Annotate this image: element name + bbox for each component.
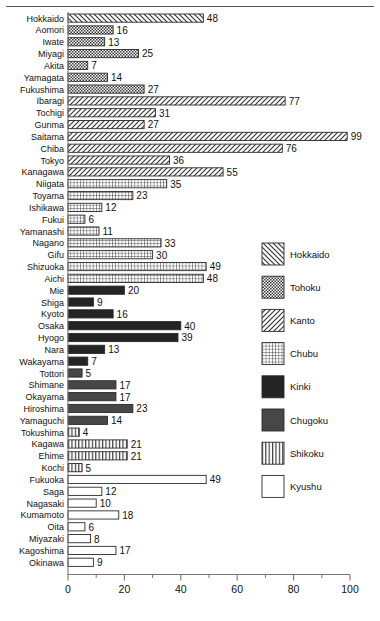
bar-shiga [68,298,93,306]
bar-wakayama [68,357,88,365]
chart-canvas: HokkaidoAomoriIwateMiyagiAkitaYamagataFu… [0,0,380,621]
value-label-oita: 6 [88,522,94,533]
legend-item-chugoku[interactable]: Chugoku [262,409,328,431]
value-label-shiga: 9 [97,297,103,308]
legend-label-hokkaido: Hokkaido [290,249,330,260]
category-label-ibaragi: Ibaragi [36,96,64,106]
value-label-mie: 20 [128,285,140,296]
category-label-ishikawa: Ishikawa [29,203,64,213]
x-tick-label-0: 0 [65,583,71,595]
category-label-fukuoka: Fukuoka [29,475,64,485]
legend-item-tohoku[interactable]: Tohoku [262,276,321,298]
bar-tottori [68,369,82,377]
bar-kanagawa [68,168,223,176]
bar-toyama [68,191,133,199]
bar-okayama [68,393,116,401]
category-label-aichi: Aichi [44,274,64,284]
x-tick-label-60: 60 [231,583,243,595]
category-label-shiga: Shiga [41,298,64,308]
category-label-chiba: Chiba [40,144,64,154]
value-label-fukui: 6 [88,214,94,225]
category-label-saga: Saga [43,487,64,497]
x-tick-label-40: 40 [175,583,187,595]
legend-label-tohoku: Tohoku [290,282,321,293]
value-label-akita: 7 [91,60,97,71]
bar-shizuoka [68,262,206,270]
category-label-oita: Oita [47,522,64,532]
bar-hokkaido [68,14,203,22]
value-label-miyagi: 25 [142,48,154,59]
bar-osaka [68,322,181,330]
category-label-nagano: Nagano [32,238,64,248]
legend-item-chubu[interactable]: Chubu [262,343,318,365]
bar-shimane [68,381,116,389]
bar-tokushima [68,428,79,436]
legend-item-shikoku[interactable]: Shikoku [262,442,324,464]
bar-akita [68,61,88,69]
bar-yamanashi [68,227,99,235]
value-label-shimane: 17 [119,380,131,391]
bar-nagano [68,239,161,247]
value-label-fukuoka: 49 [210,474,222,485]
legend-swatch-grid [262,343,284,365]
value-label-tokyo: 36 [173,155,185,166]
x-tick-label-80: 80 [288,583,300,595]
category-label-iwate: Iwate [42,37,64,47]
category-label-aomori: Aomori [35,25,64,35]
value-label-chiba: 76 [286,143,298,154]
category-label-tochigi: Tochigi [36,108,64,118]
legend-item-kyushu[interactable]: Kyushu [262,475,322,497]
category-label-yamagata: Yamagata [24,73,64,83]
bar-saga [68,487,102,495]
legend-swatch-diagonal-backslash [262,243,284,265]
value-label-yamaguchi: 14 [111,415,123,426]
category-label-hokkaido: Hokkaido [26,14,64,24]
category-label-kochi: Kochi [41,463,64,473]
category-label-okayama: Okayama [25,392,64,402]
value-label-ehime: 21 [131,451,143,462]
value-label-nara: 13 [108,344,120,355]
category-label-nagasaki: Nagasaki [26,499,64,509]
value-label-gifu: 30 [156,250,168,261]
bar-chiba [68,144,282,152]
category-label-kumamoto: Kumamoto [20,510,64,520]
category-label-mie: Mie [49,286,64,296]
value-label-tokushima: 4 [83,427,89,438]
bar-aichi [68,274,203,282]
value-label-kanagawa: 55 [227,167,239,178]
legend-label-shikoku: Shikoku [290,448,324,459]
category-label-nara: Nara [44,345,64,355]
value-label-kyoto: 16 [117,309,129,320]
value-label-miyazaki: 8 [94,534,100,545]
category-label-miyagi: Miyagi [38,49,64,59]
bar-ehime [68,452,127,460]
bar-fukushima [68,85,144,93]
value-label-ishikawa: 12 [105,202,117,213]
category-label-fukui: Fukui [42,215,64,225]
bar-nagasaki [68,499,96,507]
legend-item-kanto[interactable]: Kanto [262,309,315,331]
value-label-ibaragi: 77 [289,96,301,107]
legend-item-kinki[interactable]: Kinki [262,376,311,398]
category-label-tokyo: Tokyo [40,156,64,166]
category-labels-layer: HokkaidoAomoriIwateMiyagiAkitaYamagataFu… [19,14,64,568]
value-label-gunma: 27 [148,119,160,130]
value-label-osaka: 40 [184,321,196,332]
value-label-toyama: 23 [136,190,148,201]
legend-label-chubu: Chubu [290,348,318,359]
chart-legend: HokkaidoTohokuKantoChubuKinkiChugokuShik… [262,243,330,497]
value-label-hokkaido: 48 [207,13,219,24]
category-label-wakayama: Wakayama [19,357,64,367]
category-label-tokushima: Tokushima [21,428,64,438]
value-label-okinawa: 9 [97,557,103,568]
value-label-shizuoka: 49 [210,261,222,272]
bar-miyagi [68,49,139,57]
value-label-yamanashi: 11 [103,226,114,237]
bar-hyogo [68,333,178,341]
category-label-yamaguchi: Yamaguchi [20,416,64,426]
bar-yamaguchi [68,416,107,424]
legend-item-hokkaido[interactable]: Hokkaido [262,243,330,265]
bar-saitama [68,132,347,140]
legend-swatch-vertical-lines [262,442,284,464]
bar-niigata [68,180,167,188]
